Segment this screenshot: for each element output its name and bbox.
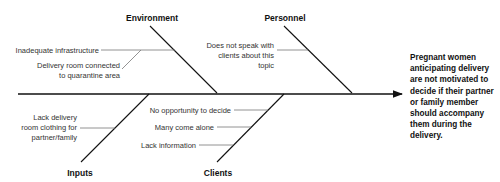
cause-personnel-line2: clients about this (218, 51, 274, 60)
cause-inputs-line1: Lack delivery (33, 113, 77, 122)
cause-inputs-line2: room clothing for (21, 123, 77, 132)
cause-personnel-line1: Does not speak with (206, 41, 274, 50)
cause-inputs-line3: partner/family (32, 133, 78, 142)
category-inputs: Inputs (67, 168, 93, 178)
category-environment: Environment (126, 13, 178, 23)
cause-many-come-alone: Many come alone (155, 123, 214, 132)
effect-statement: Pregnant women anticipating delivery are… (410, 52, 500, 142)
branch-inputs: Lack delivery room clothing for partner/… (21, 94, 149, 178)
branch-environment: Environment Inadequate infrastructure De… (16, 13, 217, 93)
cause-delivery-room-line1: Delivery room connected (37, 61, 120, 70)
category-personnel: Personnel (264, 13, 305, 23)
cause-delivery-room-line2: to quarantine area (59, 71, 121, 80)
cause-no-opportunity: No opportunity to decide (150, 106, 231, 115)
cause-lack-information: Lack information (141, 141, 196, 150)
branch-personnel: Personnel Does not speak with clients ab… (206, 13, 352, 93)
branch-clients: No opportunity to decide Many come alone… (141, 94, 284, 178)
cause-inadequate-infrastructure: Inadequate infrastructure (16, 46, 99, 55)
cause-personnel-line3: topic (258, 61, 274, 70)
category-clients: Clients (204, 168, 233, 178)
